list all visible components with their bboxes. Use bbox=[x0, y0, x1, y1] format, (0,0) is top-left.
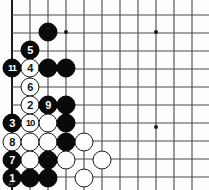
move-number-label: 3 bbox=[9, 117, 15, 128]
stone-black-move-9[interactable]: 9 bbox=[39, 96, 58, 115]
stone-black-move-3[interactable]: 3 bbox=[3, 114, 22, 133]
move-number-label: 7 bbox=[9, 154, 15, 165]
star-point bbox=[154, 30, 158, 34]
stone-white[interactable] bbox=[75, 169, 94, 188]
stone-black[interactable] bbox=[21, 169, 40, 188]
corner-mark-icon: ↵ bbox=[8, 182, 14, 188]
star-point bbox=[64, 30, 68, 34]
stone-white-move-10[interactable]: 10 bbox=[21, 114, 40, 133]
stone-black-move-7[interactable]: 7 bbox=[3, 151, 22, 170]
move-number-label: 4 bbox=[27, 62, 33, 73]
stone-black[interactable] bbox=[39, 23, 58, 42]
stone-black[interactable] bbox=[39, 59, 58, 78]
move-number-label: 9 bbox=[45, 99, 51, 110]
stone-white-move-2[interactable]: 2 bbox=[21, 96, 40, 115]
stone-white[interactable] bbox=[57, 151, 76, 170]
stone-black[interactable] bbox=[57, 133, 76, 152]
stone-white[interactable] bbox=[39, 114, 58, 133]
stone-white[interactable] bbox=[21, 151, 40, 170]
stone-black[interactable] bbox=[57, 59, 76, 78]
go-diagram: 5114629310871 ↵ bbox=[0, 0, 209, 190]
move-number-label: 2 bbox=[27, 99, 33, 110]
move-number-label: 11 bbox=[8, 63, 16, 73]
stone-black-move-11[interactable]: 11 bbox=[3, 59, 22, 78]
stone-white-move-6[interactable]: 6 bbox=[21, 78, 40, 97]
move-number-label: 8 bbox=[9, 136, 15, 147]
stone-black[interactable] bbox=[57, 114, 76, 133]
stone-black-move-5[interactable]: 5 bbox=[21, 41, 40, 60]
stone-white-move-8[interactable]: 8 bbox=[3, 133, 22, 152]
star-point bbox=[154, 125, 158, 129]
stone-white[interactable] bbox=[93, 151, 112, 170]
stone-white[interactable] bbox=[75, 133, 94, 152]
stone-white[interactable] bbox=[39, 133, 58, 152]
stone-white[interactable] bbox=[21, 133, 40, 152]
stone-black[interactable] bbox=[57, 96, 76, 115]
move-number-label: 10 bbox=[26, 118, 35, 128]
stone-white-move-4[interactable]: 4 bbox=[21, 59, 40, 78]
stone-black[interactable] bbox=[39, 169, 58, 188]
move-number-label: 5 bbox=[27, 44, 33, 55]
stone-black[interactable] bbox=[39, 151, 58, 170]
move-number-label: 6 bbox=[27, 81, 33, 92]
